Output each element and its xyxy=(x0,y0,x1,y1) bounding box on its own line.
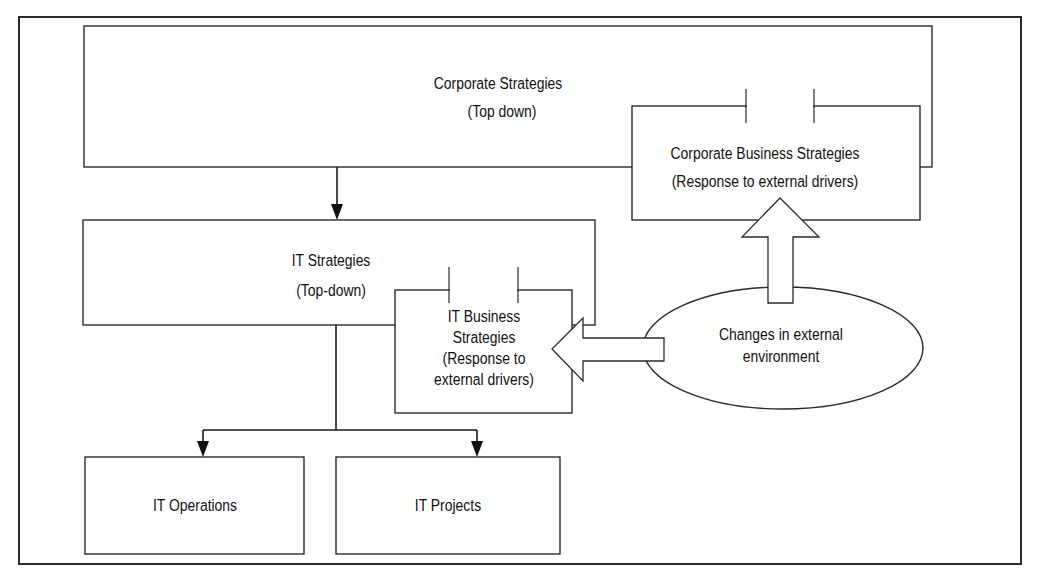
external-environment-line-1: Changes in external xyxy=(719,325,843,344)
it-strategies-subtitle: (Top-down) xyxy=(296,281,366,300)
arrow-head-projects xyxy=(471,441,483,457)
it-business-strategies-line-4: external drivers) xyxy=(434,370,534,389)
it-business-strategies-line-2: Strategies xyxy=(453,328,516,347)
external-environment-ellipse: Changes in external environment xyxy=(643,287,923,409)
corporate-business-strategies-subtitle: (Response to external drivers) xyxy=(672,172,859,191)
it-business-strategies-line-3: (Response to xyxy=(443,349,526,368)
it-projects-box: IT Projects xyxy=(336,457,560,554)
corporate-business-strategies-title: Corporate Business Strategies xyxy=(671,144,860,163)
it-business-strategies-line-1: IT Business xyxy=(448,307,521,326)
corporate-strategies-subtitle: (Top down) xyxy=(468,102,537,121)
corporate-business-strategies-box: Corporate Business Strategies (Response … xyxy=(632,89,920,220)
external-environment-line-2: environment xyxy=(743,347,820,366)
arrow-corporate-to-it xyxy=(331,167,343,220)
it-operations-label: IT Operations xyxy=(153,496,237,515)
it-strategies-title: IT Strategies xyxy=(292,251,371,270)
corporate-strategies-title: Corporate Strategies xyxy=(434,74,563,93)
arrow-head-operations xyxy=(197,441,209,457)
it-projects-label: IT Projects xyxy=(415,496,482,515)
it-operations-box: IT Operations xyxy=(85,457,304,554)
strategy-diagram: Corporate Strategies (Top down) Corporat… xyxy=(0,0,1051,585)
